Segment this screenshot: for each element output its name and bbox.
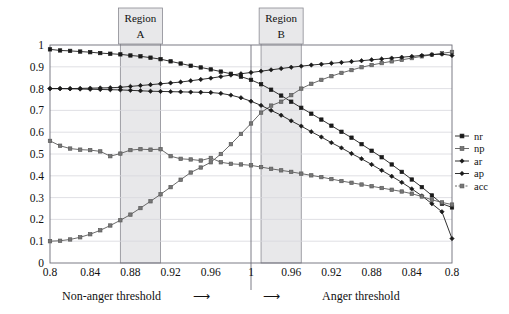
data-point — [78, 148, 81, 151]
data-point — [369, 58, 373, 62]
data-point — [179, 62, 182, 65]
data-point — [279, 94, 282, 97]
data-point — [359, 58, 363, 62]
anger-threshold-label: Anger threshold — [322, 289, 400, 303]
data-point — [178, 80, 182, 84]
data-point — [129, 54, 132, 57]
region-band-b — [261, 12, 301, 263]
data-point — [450, 203, 453, 206]
non-anger-threshold-label: Non-anger threshold — [62, 289, 161, 303]
data-point — [109, 224, 112, 227]
data-point — [229, 162, 232, 165]
data-point — [169, 154, 172, 157]
data-point — [339, 60, 343, 64]
y-tick-label: 0.9 — [30, 61, 45, 73]
data-point — [440, 201, 443, 204]
x-axis-tick-labels: 0.80.840.880.920.9610.960.920.880.840.8 — [43, 266, 460, 278]
data-point — [189, 79, 193, 83]
legend-label-nr: nr — [474, 131, 483, 142]
data-point — [219, 161, 222, 164]
data-point — [48, 240, 51, 243]
y-tick-label: 0.1 — [30, 235, 45, 247]
data-point — [300, 87, 303, 90]
data-point — [290, 93, 293, 96]
x-tick-label: 1 — [248, 266, 254, 278]
y-tick-label: 0.8 — [30, 83, 45, 95]
data-point — [410, 192, 413, 195]
data-point — [360, 142, 363, 145]
data-point — [249, 70, 253, 74]
x-tick-label: 0.96 — [201, 266, 221, 278]
data-point — [390, 188, 393, 191]
data-point — [360, 183, 363, 186]
legend-label-ar: ar — [474, 156, 483, 167]
data-point — [139, 148, 142, 151]
legend-label-np: np — [474, 143, 485, 154]
y-tick-label: 0.7 — [30, 104, 45, 116]
data-point — [309, 130, 313, 134]
data-point — [320, 118, 323, 121]
data-point — [179, 178, 182, 181]
data-point — [159, 193, 162, 196]
data-point — [189, 64, 192, 67]
data-point — [390, 174, 394, 178]
data-point — [370, 185, 373, 188]
data-point — [249, 122, 252, 125]
legend-label-acc: acc — [474, 181, 488, 192]
data-point — [89, 148, 92, 151]
data-point — [410, 178, 413, 181]
data-point — [370, 149, 373, 152]
data-point — [239, 96, 243, 100]
data-point — [400, 190, 403, 193]
region-label-word: Region — [125, 12, 157, 24]
data-point — [199, 90, 203, 94]
y-tick-label: 0.3 — [30, 192, 45, 204]
data-point — [139, 55, 142, 58]
data-point — [129, 148, 132, 151]
data-point — [380, 156, 383, 159]
data-point — [109, 154, 112, 157]
legend-marker-np — [460, 147, 464, 151]
x-tick-label: 0.88 — [120, 266, 140, 278]
data-point — [159, 148, 162, 151]
legend-marker-ap — [460, 171, 464, 175]
data-point — [379, 168, 383, 172]
data-point — [149, 200, 152, 203]
data-point — [78, 50, 81, 53]
data-point — [340, 179, 343, 182]
data-point — [209, 76, 213, 80]
data-point — [319, 62, 323, 66]
data-point — [189, 90, 193, 94]
x-tick-label: 0.8 — [445, 266, 460, 278]
data-point — [99, 229, 102, 232]
data-point — [219, 152, 222, 155]
data-point — [48, 86, 52, 90]
data-point — [209, 90, 213, 94]
chart-legend: nrnparapacc — [455, 131, 488, 192]
data-point — [169, 60, 172, 63]
data-point — [58, 144, 61, 147]
data-point — [329, 140, 333, 144]
data-point — [229, 142, 232, 145]
data-point — [168, 81, 172, 85]
data-point — [349, 151, 353, 155]
data-point — [209, 156, 212, 159]
data-point — [239, 132, 242, 135]
data-point — [68, 238, 71, 241]
data-point — [199, 66, 202, 69]
data-point — [129, 213, 132, 216]
data-point — [189, 171, 192, 174]
data-point — [119, 152, 122, 155]
data-point — [369, 162, 373, 166]
data-point — [209, 161, 212, 164]
data-point — [99, 51, 102, 54]
data-point — [58, 239, 61, 242]
data-point — [149, 56, 152, 59]
data-point — [279, 169, 282, 172]
data-point — [290, 170, 293, 173]
data-point — [380, 61, 383, 64]
data-point — [420, 185, 423, 188]
region-label-letter: B — [277, 28, 284, 40]
region-labels: RegionARegionB — [118, 8, 303, 44]
data-point — [350, 136, 353, 139]
